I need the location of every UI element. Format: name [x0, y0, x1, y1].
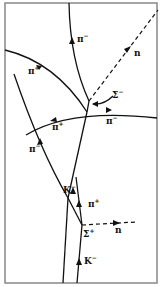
label-n-lower: n: [115, 225, 122, 235]
track-k-minus-beam: [77, 225, 82, 283]
arrow-icon: [76, 200, 82, 207]
track-pi-minus-left: [14, 74, 68, 198]
arrow-icon: [76, 258, 82, 265]
label-pi-plus-lower: π+: [88, 197, 100, 209]
track-pi-minus-top: [69, 3, 89, 101]
label-pi-minus-arc: π−: [106, 114, 118, 126]
arrow-icon: [92, 101, 98, 107]
arrow-icon: [124, 46, 131, 53]
arrow-icon: [106, 107, 112, 113]
label-pi-minus-left: π−: [29, 142, 41, 154]
track-neutron-upper: [89, 10, 158, 101]
label-pi-minus-top: π−: [77, 32, 89, 44]
label-sigma-plus: Σ+: [83, 227, 94, 239]
track-arc-pions: [26, 115, 157, 135]
track-left-lower: [63, 198, 68, 283]
track-neutron-lower: [82, 222, 136, 225]
bubble-chamber-diagram: π− n π+ Σ− π+ π− π− K− π+ Σ+ n K−: [0, 0, 164, 287]
label-pi-plus-upper: π+: [28, 64, 40, 76]
arrow-icon: [69, 37, 75, 44]
track-sigma-minus: [87, 101, 89, 112]
label-sigma-minus: Σ−: [112, 88, 123, 100]
label-pi-plus-arc: π+: [52, 120, 64, 132]
label-k-minus-beam: K−: [84, 254, 97, 266]
label-n-upper: n: [134, 48, 141, 58]
